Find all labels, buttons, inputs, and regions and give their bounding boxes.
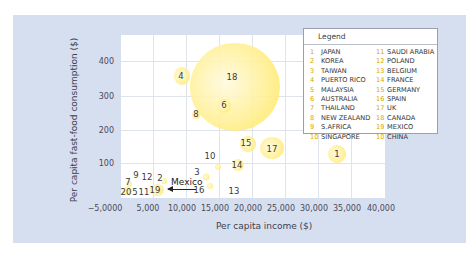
x-tick: 25,000 (267, 204, 295, 213)
legend-item: 14 FRANCE (376, 76, 434, 85)
point-label: 8 (193, 109, 198, 119)
legend-column-right: 11 SAUDI ARABIA 12 POLAND 13 BELGIUM 14 … (376, 48, 434, 142)
point-label: 2 (157, 173, 162, 183)
x-tick: 35,000 (333, 204, 361, 213)
point-label: 20 (121, 187, 132, 197)
point-label: 14 (232, 160, 243, 170)
legend-item: 12 POLAND (376, 57, 434, 66)
legend-item: 16 SPAIN (376, 95, 434, 104)
legend-item: 7 THAILAND (310, 104, 370, 113)
x-tick: 40,000 (367, 204, 395, 213)
point-label: 12 (142, 172, 153, 182)
point-label: 1 (334, 149, 339, 159)
legend-item: 10 CHINA (376, 133, 434, 142)
legend-item: 8 NEW ZEALAND (310, 114, 370, 123)
y-tick: 400 (84, 57, 114, 66)
x-tick: 30,000 (300, 204, 328, 213)
point-label: 13 (229, 186, 240, 196)
point-label: 18 (227, 72, 238, 82)
y-tick: 300 (84, 92, 114, 101)
legend-item: 18 CANADA (376, 114, 434, 123)
point-label: 9 (133, 170, 138, 180)
legend-item: 6 AUSTRALIA (310, 95, 370, 104)
grid-line (285, 35, 286, 198)
legend-item: 5 MALAYSIA (310, 86, 370, 95)
bubble-taiwan (203, 174, 210, 181)
y-axis-label: Per capita fast-food consumption ($) (69, 38, 79, 203)
legend-column-left: 1 JAPAN 2 KOREA 3 TAIWAN 4 PUERTO RICO 5… (310, 48, 370, 142)
x-tick: −5,0000 (88, 204, 123, 213)
legend-item: 9 S.AFRICA (310, 123, 370, 132)
y-tick: 100 (84, 159, 114, 168)
point-label: 3 (194, 167, 199, 177)
x-tick: 20,000 (234, 204, 262, 213)
mexico-annotation: Mexico (171, 177, 202, 187)
point-label: 5 (132, 187, 137, 197)
point-label: 15 (241, 138, 252, 148)
grid-line (153, 35, 154, 198)
bubble-spain (207, 183, 213, 189)
legend-item: 1 JAPAN (310, 48, 370, 57)
bubble-canada (190, 43, 280, 131)
grid-line (121, 163, 385, 164)
point-label: 11 (139, 187, 150, 197)
grid-line (186, 35, 187, 198)
x-axis-label: Per capita income ($) (216, 221, 312, 231)
legend-item: 13 BELGIUM (376, 67, 434, 76)
point-label: 19 (150, 185, 161, 195)
point-label: 7 (125, 177, 130, 187)
x-tick: 15,000 (201, 204, 229, 213)
point-label: 6 (221, 100, 226, 110)
legend-item: 19 MEXICO (376, 123, 434, 132)
x-tick: 5,000 (137, 204, 160, 213)
mexico-arrow-icon (168, 189, 196, 190)
x-tick: 10,000 (168, 204, 196, 213)
legend-item: 4 PUERTO RICO (310, 76, 370, 85)
legend-divider (304, 44, 437, 45)
legend-item: 2 KOREA (310, 57, 370, 66)
legend-item: 3 TAIWAN (310, 67, 370, 76)
point-label: 10 (205, 151, 216, 161)
legend-item: 11 SAUDI ARABIA (376, 48, 434, 57)
legend-item: 10 SINGAPORE (310, 133, 370, 142)
legend-item: 15 GERMANY (376, 86, 434, 95)
point-label: 17 (267, 144, 278, 154)
bubble-singapore (215, 164, 221, 170)
legend-item: 17 UK (376, 104, 434, 113)
y-tick: 200 (84, 126, 114, 135)
legend-title: Legend (318, 32, 346, 41)
point-label: 4 (178, 71, 183, 81)
legend: Legend 1 JAPAN 2 KOREA 3 TAIWAN 4 PUERTO… (303, 28, 438, 134)
